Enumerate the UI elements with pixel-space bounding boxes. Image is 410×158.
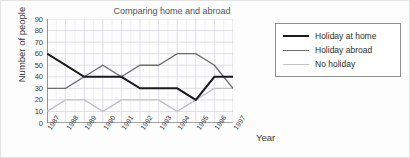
- legend-item-no-holiday[interactable]: No holiday: [281, 57, 396, 71]
- chart-svg: [47, 19, 233, 123]
- y-axis-tick-labels: 9080706050403020100: [23, 19, 43, 123]
- chart-legend: Holiday at homeHoliday abroadNo holiday: [275, 23, 401, 77]
- y-tick-0: 0: [23, 120, 43, 127]
- legend-swatch-icon: [283, 64, 309, 65]
- plot-area: [47, 19, 233, 123]
- chart-screenshot: Comparing home and abroad Number of peop…: [0, 0, 410, 158]
- y-tick-30: 30: [23, 85, 43, 92]
- y-tick-90: 90: [23, 16, 43, 23]
- legend-swatch-icon: [283, 50, 309, 51]
- x-axis-tick-labels: 1987198819891990199119921993199419951996…: [47, 125, 247, 155]
- x-axis-label: Year: [256, 132, 275, 143]
- y-tick-40: 40: [23, 73, 43, 80]
- legend-label: Holiday at home: [315, 31, 376, 41]
- x-tick-1997: 1997: [232, 114, 247, 131]
- legend-label: Holiday abroad: [315, 45, 372, 55]
- y-tick-70: 70: [23, 39, 43, 46]
- y-tick-60: 60: [23, 50, 43, 57]
- legend-item-holiday-abroad[interactable]: Holiday abroad: [281, 43, 396, 57]
- y-tick-10: 10: [23, 108, 43, 115]
- legend-item-holiday-at-home[interactable]: Holiday at home: [281, 29, 396, 43]
- y-tick-50: 50: [23, 62, 43, 69]
- legend-swatch-icon: [283, 35, 309, 37]
- legend-label: No holiday: [315, 59, 355, 69]
- y-tick-80: 80: [23, 27, 43, 34]
- y-tick-20: 20: [23, 96, 43, 103]
- chart-title: Comparing home and abroad: [87, 6, 257, 16]
